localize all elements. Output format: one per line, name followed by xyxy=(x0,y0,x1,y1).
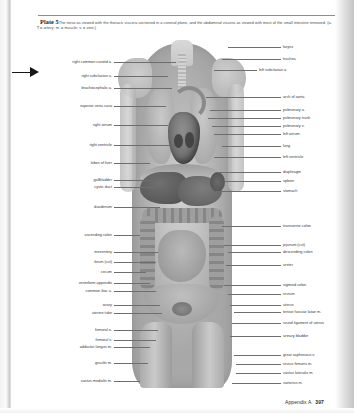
anatomy-label: brachiocephalic a. xyxy=(81,86,112,90)
anatomy-label: common iliac a. xyxy=(86,289,112,293)
anatomy-label: femoral v. xyxy=(96,338,112,342)
anatomy-label: round ligament of uterus xyxy=(283,321,324,325)
leader-line xyxy=(114,291,156,292)
leader-line xyxy=(228,252,281,253)
leader-line xyxy=(222,226,281,227)
thigh-right xyxy=(192,322,224,388)
leader-line xyxy=(114,62,176,63)
anatomy-label: transverse colon xyxy=(283,224,311,228)
leader-line xyxy=(114,363,148,364)
leader-line xyxy=(228,294,281,295)
heart-chamber-right xyxy=(185,132,194,148)
arm-left xyxy=(120,84,136,192)
leader-line xyxy=(226,265,281,266)
anatomy-label: rectum xyxy=(283,292,295,296)
page-right-edge xyxy=(335,0,354,413)
anatomy-label: cystic duct xyxy=(94,185,112,189)
footer-section: Appendix A xyxy=(285,399,311,405)
anatomy-label: right atrium xyxy=(93,123,112,127)
leader-line xyxy=(222,146,281,147)
ascending-colon-structure xyxy=(140,216,155,290)
leader-line xyxy=(114,340,156,341)
anatomy-label: tensor fasciae latae m. xyxy=(283,310,321,314)
anatomy-label: right subclavian a. xyxy=(81,74,112,78)
anatomy-label: mesentery xyxy=(94,250,112,254)
leader-line xyxy=(212,126,281,127)
leader-line xyxy=(114,187,156,188)
leader-line xyxy=(232,383,281,384)
leader-line xyxy=(114,163,150,164)
thigh-left xyxy=(140,322,172,388)
leader-line xyxy=(224,181,281,182)
anatomy-label: vastus medialis m. xyxy=(81,379,112,383)
caption-marker: ¶ xyxy=(37,25,39,30)
leader-line xyxy=(114,180,152,181)
leader-line xyxy=(206,97,281,98)
leader-line xyxy=(114,272,146,273)
leader-line xyxy=(114,283,150,284)
anatomy-label: great saphenous v. xyxy=(283,353,315,357)
urinary-bladder-structure xyxy=(172,302,192,316)
anatomy-label: vastus lateralis m. xyxy=(283,371,313,375)
leader-line xyxy=(114,207,160,208)
leader-line xyxy=(114,235,140,236)
arm-right xyxy=(228,84,244,192)
anatomy-label: larynx xyxy=(283,45,293,49)
page-left-edge xyxy=(0,0,11,413)
anatomy-label: right ventricle xyxy=(89,143,112,147)
leader-line xyxy=(222,59,281,60)
anatomy-label: ureter xyxy=(283,263,293,267)
footer-page-number: 397 xyxy=(315,399,324,405)
page-footer: Appendix A397 xyxy=(285,399,324,405)
anatomy-label: uterus xyxy=(283,303,294,307)
caption-divider xyxy=(38,15,335,16)
anatomy-label: adductor longus m. xyxy=(80,345,112,349)
leader-line xyxy=(114,305,160,306)
leader-line xyxy=(114,125,168,126)
anatomy-label: pulmonary v. xyxy=(283,124,304,128)
anatomy-label: trachea xyxy=(283,57,296,61)
leader-line xyxy=(236,373,281,374)
anatomy-label: vermiform appendix xyxy=(79,281,112,285)
leader-line xyxy=(218,172,281,173)
leader-line xyxy=(114,347,150,348)
leader-line xyxy=(114,106,166,107)
anatomy-label: arch of aorta xyxy=(283,95,304,99)
plate-caption: ¶Plate 5The torso as viewed with the tho… xyxy=(40,19,335,31)
page-bottom-edge xyxy=(0,408,354,413)
anatomy-label: stomach xyxy=(283,189,297,193)
anatomy-label: sigmoid colon xyxy=(283,283,306,287)
anatomy-label: duodenum xyxy=(94,205,112,209)
anatomy-label: diaphragm xyxy=(283,170,301,174)
anatomy-label: urinary bladder xyxy=(283,334,308,338)
leader-line xyxy=(114,252,158,253)
anatomy-label: ileum (cut) xyxy=(94,260,112,264)
anatomy-illustration xyxy=(118,40,246,388)
leader-line xyxy=(224,285,281,286)
anatomy-label: uterine tube xyxy=(92,311,112,315)
heart-chamber-left xyxy=(174,134,183,148)
anatomy-label: rectus femoris m. xyxy=(283,362,312,366)
leader-line xyxy=(214,70,257,71)
descending-colon-structure xyxy=(209,216,224,290)
anatomy-label: sartorius m. xyxy=(283,381,303,385)
leader-line xyxy=(224,245,281,246)
anatomy-label: pulmonary trunk xyxy=(283,116,310,120)
anatomy-label: gracilis m. xyxy=(95,361,112,365)
anatomy-label: ovary xyxy=(103,303,112,307)
leader-line xyxy=(234,355,281,356)
anatomy-label: lobes of liver xyxy=(91,161,112,165)
leader-line xyxy=(214,157,281,158)
anatomy-label: gallbladder xyxy=(93,178,112,182)
arrow-head xyxy=(30,67,39,77)
caption-text: The torso as viewed with the thoracic vi… xyxy=(40,20,332,30)
textbook-page: ¶Plate 5The torso as viewed with the tho… xyxy=(0,0,354,413)
anatomy-label: femoral a. xyxy=(95,328,112,332)
leader-line xyxy=(114,88,172,89)
leader-line xyxy=(234,312,281,313)
anatomy-label: superior vena cava xyxy=(80,104,112,108)
anatomy-label: left subclavian a. xyxy=(259,68,287,72)
leader-line xyxy=(230,336,281,337)
anatomy-label: left ventricle xyxy=(283,155,303,159)
leader-line xyxy=(114,262,156,263)
